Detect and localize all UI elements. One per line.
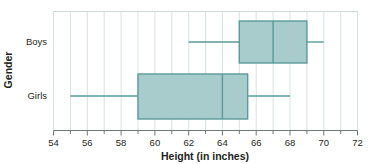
x-tick-label-58: 58 [116,137,127,148]
x-axis-title: Height (in inches) [161,150,249,162]
x-tick-label-72: 72 [352,137,363,148]
x-tick-label-64: 64 [217,137,228,148]
x-tick-label-60: 60 [150,137,161,148]
x-tick-labels: 54 56 58 60 62 64 66 68 70 72 [48,137,363,148]
x-tick-label-56: 56 [82,137,93,148]
box-plot-chart: 54 56 58 60 62 64 66 68 70 72 Height (in… [0,0,374,164]
y-category-label-boys: Boys [26,36,47,47]
x-axis-ticks [54,131,358,136]
y-category-label-girls: Girls [27,90,47,101]
girls-box [138,74,248,119]
x-tick-label-68: 68 [285,137,296,148]
x-tick-label-66: 66 [251,137,262,148]
x-tick-label-70: 70 [319,137,330,148]
x-tick-label-62: 62 [183,137,194,148]
x-tick-label-54: 54 [48,137,59,148]
y-axis-title: Gender [2,52,14,89]
